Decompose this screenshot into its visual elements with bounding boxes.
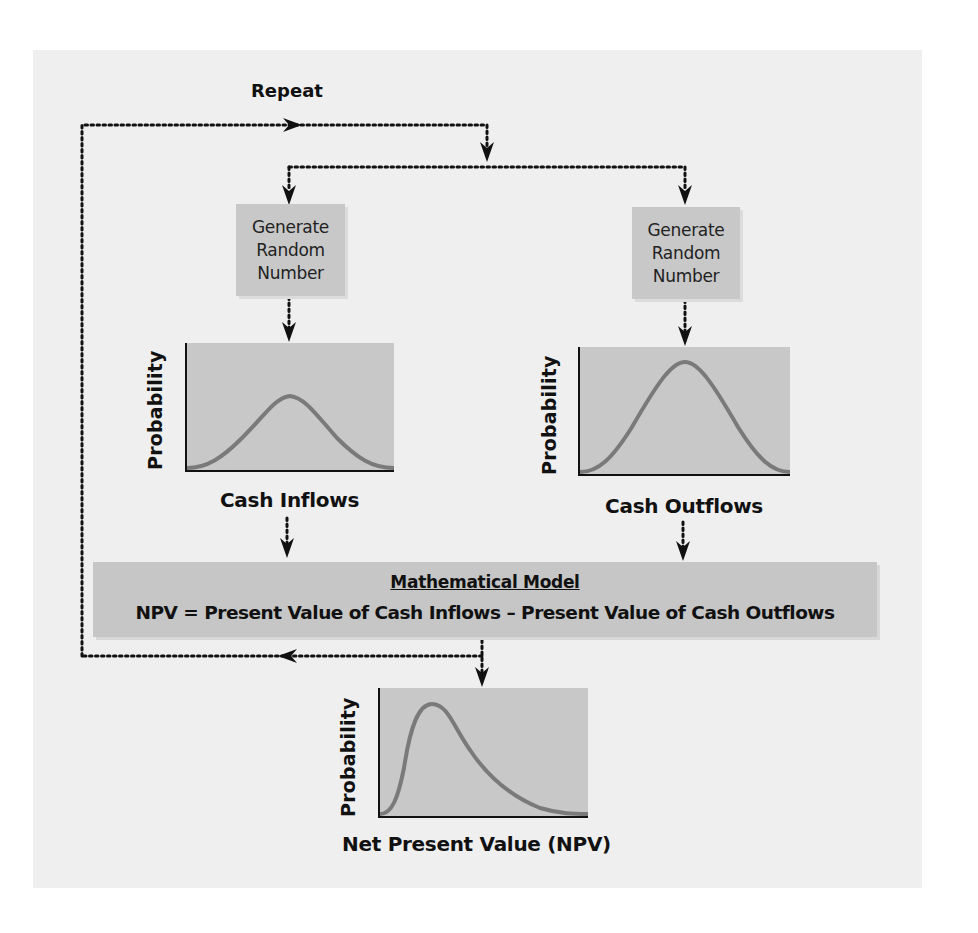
gen-line-1: Generate <box>236 216 345 239</box>
npv-formula: NPV = Present Value of Cash Inflows – Pr… <box>93 602 877 623</box>
cash-inflows-distribution-chart <box>185 343 394 472</box>
repeat-label: Repeat <box>251 80 323 101</box>
gen-line-2: Random <box>632 242 740 265</box>
gen-line-1: Generate <box>632 219 740 242</box>
y-axis-label-outflows: Probability <box>538 355 560 475</box>
y-axis-label-npv: Probability <box>337 697 359 817</box>
cash-outflows-distribution-chart <box>578 347 790 476</box>
gen-line-3: Number <box>632 265 740 288</box>
gen-line-2: Random <box>236 239 345 262</box>
x-axis-label-npv: Net Present Value (NPV) <box>330 832 642 856</box>
npv-distribution-chart <box>378 688 588 818</box>
generate-random-number-box-outflows: Generate Random Number <box>632 207 740 299</box>
x-axis-label-inflows: Cash Inflows <box>185 488 394 512</box>
model-heading: Mathematical Model <box>93 572 877 592</box>
y-axis-label-inflows: Probability <box>144 350 166 470</box>
x-axis-label-outflows: Cash Outflows <box>578 494 790 518</box>
gen-line-3: Number <box>236 262 345 285</box>
mathematical-model-box: Mathematical Model NPV = Present Value o… <box>93 562 877 637</box>
generate-random-number-box-inflows: Generate Random Number <box>236 204 345 296</box>
